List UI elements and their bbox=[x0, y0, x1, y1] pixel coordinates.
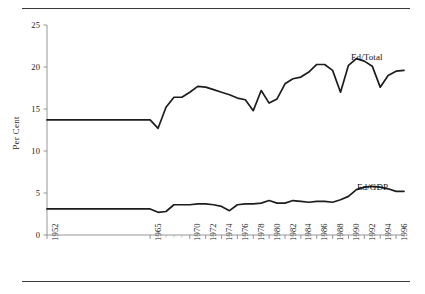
plot-area bbox=[0, 0, 425, 294]
data-series-group bbox=[47, 59, 404, 213]
x-axis-ticks bbox=[47, 235, 404, 239]
series-line-ed-gdp bbox=[47, 186, 404, 212]
y-axis-ticks bbox=[44, 25, 48, 235]
series-label-ed-gdp: Ed/GDP bbox=[357, 182, 388, 192]
series-label-ed-total: Ed/Total bbox=[351, 52, 383, 62]
series-line-ed-total bbox=[47, 59, 404, 129]
chart-figure: Per Cent 0510152025 19521965197019721974… bbox=[0, 0, 425, 294]
